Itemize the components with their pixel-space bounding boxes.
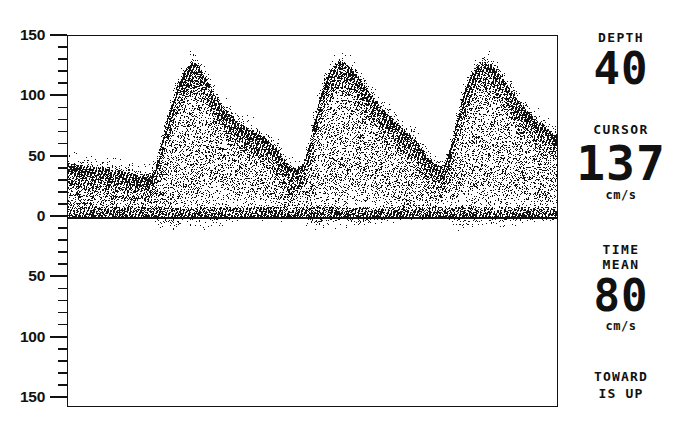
y-axis-major-tick xyxy=(50,396,67,398)
depth-value: 40 xyxy=(560,47,682,91)
y-axis-label: 50 xyxy=(28,147,45,165)
y-axis-major-tick xyxy=(50,34,67,36)
y-axis-minor-tick xyxy=(58,263,67,265)
y-axis-minor-tick xyxy=(58,191,67,193)
y-axis-major-tick xyxy=(50,215,67,217)
y-axis-minor-tick xyxy=(58,251,67,253)
flow-orientation-line2: IS UP xyxy=(560,385,682,402)
spectral-waveform-canvas xyxy=(68,36,558,407)
time-mean-value: 80 xyxy=(560,274,682,318)
y-axis-minor-tick xyxy=(58,239,67,241)
y-axis-label: 150 xyxy=(20,388,45,406)
time-mean-unit: cm/s xyxy=(560,319,682,333)
spectral-doppler-plot xyxy=(67,35,558,407)
y-axis-minor-tick xyxy=(58,203,67,205)
time-mean-readout: TIME MEAN 80 cm/s xyxy=(560,242,682,333)
y-axis-major-tick xyxy=(50,155,67,157)
y-axis-minor-tick xyxy=(58,82,67,84)
y-axis-minor-tick xyxy=(58,167,67,169)
measurement-readout-panel: DEPTH 40 CURSOR 137 cm/s TIME MEAN 80 cm… xyxy=(560,0,682,427)
y-axis-label: 50 xyxy=(28,267,45,285)
zero-baseline xyxy=(68,217,557,219)
y-axis-minor-tick xyxy=(58,300,67,302)
y-axis-label: 100 xyxy=(20,328,45,346)
flow-orientation-line1: TOWARD xyxy=(560,368,682,385)
y-axis-minor-tick xyxy=(58,70,67,72)
y-axis-minor-tick xyxy=(58,143,67,145)
y-axis-label: 0 xyxy=(37,207,45,225)
y-axis-major-tick xyxy=(50,275,67,277)
y-axis-minor-tick xyxy=(58,119,67,121)
depth-readout: DEPTH 40 xyxy=(560,30,682,91)
y-axis-minor-tick xyxy=(58,348,67,350)
y-axis-minor-tick xyxy=(58,227,67,229)
y-axis-minor-tick xyxy=(58,179,67,181)
y-axis-label: 150 xyxy=(20,26,45,44)
time-mean-label-line1: TIME xyxy=(560,242,682,257)
y-axis-label: 100 xyxy=(20,86,45,104)
y-axis-minor-tick xyxy=(58,107,67,109)
y-axis-minor-tick xyxy=(58,131,67,133)
y-axis-minor-tick xyxy=(58,384,67,386)
cursor-value: 137 xyxy=(560,139,682,187)
y-axis-minor-tick xyxy=(58,372,67,374)
cursor-readout: CURSOR 137 cm/s xyxy=(560,122,682,202)
y-axis-minor-tick xyxy=(58,312,67,314)
y-axis-minor-tick xyxy=(58,46,67,48)
y-axis-major-tick xyxy=(50,94,67,96)
doppler-display: 15010050050100150 DEPTH 40 CURSOR 137 cm… xyxy=(0,0,682,427)
y-axis-minor-tick xyxy=(58,324,67,326)
y-axis-minor-tick xyxy=(58,288,67,290)
flow-orientation-indicator: TOWARD IS UP xyxy=(560,368,682,402)
y-axis-minor-tick xyxy=(58,360,67,362)
y-axis-minor-tick xyxy=(58,58,67,60)
y-axis-major-tick xyxy=(50,336,67,338)
y-axis: 15010050050100150 xyxy=(0,0,67,427)
